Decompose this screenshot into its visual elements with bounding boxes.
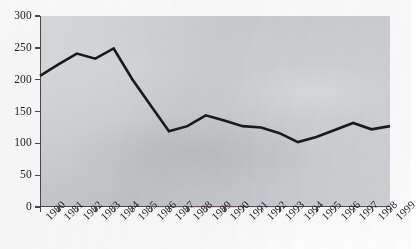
x-tick-mark [58, 207, 59, 212]
y-tick-mark [35, 15, 40, 16]
y-tick-label: 200 [14, 72, 32, 87]
x-tick-mark [114, 207, 115, 212]
x-tick-mark [279, 207, 280, 212]
x-tick-mark [77, 207, 78, 212]
y-axis-tick-300: 300 [0, 16, 40, 17]
x-tick-mark [243, 207, 244, 212]
x-tick-mark [187, 207, 188, 212]
y-tick-label: 250 [14, 40, 32, 55]
x-tick-mark [261, 207, 262, 212]
x-tick-mark [335, 207, 336, 212]
x-tick-mark [298, 207, 299, 212]
y-axis-tick-200: 200 [0, 80, 40, 81]
x-tick-mark [132, 207, 133, 212]
y-tick-label: 150 [14, 104, 32, 119]
y-tick-mark [35, 47, 40, 48]
y-tick-mark [35, 79, 40, 80]
x-tick-mark [169, 207, 170, 212]
y-tick-label: 300 [14, 8, 32, 23]
y-axis-tick-50: 50 [0, 175, 40, 176]
y-tick-label: 50 [20, 167, 32, 182]
y-tick-mark [35, 111, 40, 112]
y-axis-tick-0: 0 [0, 207, 40, 208]
y-axis-tick-250: 250 [0, 48, 40, 49]
x-tick-mark [40, 207, 41, 212]
series-1-polyline [40, 48, 390, 142]
x-tick-mark [206, 207, 207, 212]
y-axis-tick-100: 100 [0, 143, 40, 144]
x-tick-mark [372, 207, 373, 212]
y-axis-tick-150: 150 [0, 112, 40, 113]
y-tick-mark [35, 175, 40, 176]
x-tick-mark [95, 207, 96, 212]
y-tick-mark [35, 143, 40, 144]
y-tick-label: 0 [26, 199, 32, 214]
x-tick-mark [390, 207, 391, 212]
data-series-line [40, 16, 390, 207]
x-tick-mark [353, 207, 354, 212]
y-tick-label: 100 [14, 135, 32, 150]
x-tick-mark [151, 207, 152, 212]
x-tick-label: 1999 [393, 198, 417, 222]
x-tick-mark [224, 207, 225, 212]
x-tick-mark [316, 207, 317, 212]
